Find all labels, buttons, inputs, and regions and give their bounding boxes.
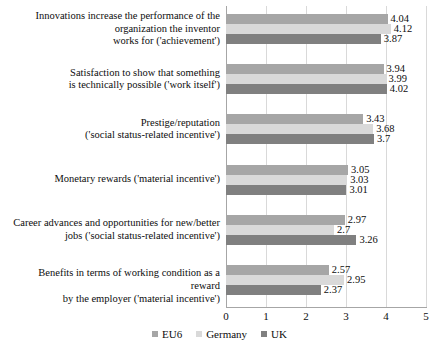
bar-row: 2.7 [226,225,426,235]
legend: EU6GermanyUK [0,328,439,340]
category-label: Prestige/reputation('social status-relat… [8,117,220,142]
legend-label: UK [271,328,287,340]
bar-eu6[interactable] [226,64,384,74]
category-label-line: Monetary rewards ('material incentive') [8,173,220,186]
bar-row: 3.03 [226,175,426,185]
category-label: Monetary rewards ('material incentive') [8,173,220,186]
bar-row: 3.05 [226,165,426,175]
bar-group: 3.053.033.01 [226,165,426,195]
gridline-4 [386,6,387,307]
bar-uk[interactable] [226,285,321,295]
tick-label-5: 5 [411,310,439,322]
category-label: Benefits in terms of working condition a… [8,267,220,305]
bar-group: 2.572.952.37 [226,265,426,295]
tick-label-2: 2 [291,310,321,322]
tick-label-3: 3 [331,310,361,322]
bar-value-label: 3.01 [346,184,367,195]
legend-label: Germany [206,328,247,340]
category-label-line: is technically possible ('work itself') [8,79,220,92]
bar-uk[interactable] [226,134,374,144]
bar-germany[interactable] [226,124,373,134]
category-label-line: Satisfaction to show that something [8,67,220,80]
bar-uk[interactable] [226,84,387,94]
gridline-5 [426,6,427,307]
category-label: Satisfaction to show that somethingis te… [8,67,220,92]
bar-germany[interactable] [226,24,391,34]
legend-item-uk[interactable]: UK [261,328,287,340]
bar-value-label: 2.7 [334,225,350,236]
tick-label-1: 1 [251,310,281,322]
bar-chart: 4.044.123.873.943.994.023.433.683.73.053… [0,0,439,348]
category-label-line: works for ('achievement') [8,35,220,48]
tick-label-0: 0 [211,310,241,322]
category-label-line: jobs ('social status-related incentive') [8,230,220,243]
category-label-line: Innovations increase the performance of … [8,10,220,23]
bar-value-label: 2.95 [344,275,365,286]
bar-eu6[interactable] [226,215,345,225]
bar-row: 4.02 [226,84,426,94]
bar-row: 3.87 [226,34,426,44]
category-label-line: ('social status-related incentive') [8,129,220,142]
bar-value-label: 3.7 [374,134,390,145]
bar-group: 2.972.73.26 [226,215,426,245]
bar-group: 4.044.123.87 [226,14,426,44]
legend-swatch-icon [152,331,158,337]
bar-uk[interactable] [226,185,346,195]
tick-label-4: 4 [371,310,401,322]
legend-swatch-icon [261,331,267,337]
bar-germany[interactable] [226,175,347,185]
gridline-0 [226,6,227,307]
bar-row: 3.01 [226,185,426,195]
bar-germany[interactable] [226,74,386,84]
bar-eu6[interactable] [226,14,388,24]
gridline-3 [346,6,347,307]
category-label-line: by the employer ('material incentive') [8,293,220,306]
category-label-line: Prestige/reputation [8,117,220,130]
bar-row: 3.68 [226,124,426,134]
bar-group: 3.433.683.7 [226,114,426,144]
legend-item-eu6[interactable]: EU6 [152,328,182,340]
plot-area: 4.044.123.873.943.994.023.433.683.73.053… [226,6,426,307]
bar-value-label: 3.87 [381,34,402,45]
bar-row: 3.26 [226,235,426,245]
bar-uk[interactable] [226,235,356,245]
x-axis-line [226,307,427,308]
gridline-1 [266,6,267,307]
bar-eu6[interactable] [226,165,348,175]
bar-eu6[interactable] [226,114,363,124]
bar-row: 2.57 [226,265,426,275]
category-label: Innovations increase the performance of … [8,10,220,48]
legend-item-germany[interactable]: Germany [196,328,247,340]
category-label-line: Benefits in terms of working condition a… [8,267,220,292]
legend-label: EU6 [162,328,182,340]
category-label-line: organization the inventor [8,23,220,36]
bar-value-label: 4.02 [387,84,408,95]
gridline-2 [306,6,307,307]
bar-value-label: 2.37 [321,285,342,296]
legend-swatch-icon [196,331,202,337]
bar-group: 3.943.994.02 [226,64,426,94]
bar-row: 2.97 [226,215,426,225]
bar-germany[interactable] [226,225,334,235]
bar-row: 3.7 [226,134,426,144]
bar-value-label: 3.26 [356,235,377,246]
bar-row: 3.43 [226,114,426,124]
category-label: Career advances and opportunities for ne… [8,217,220,242]
bar-row: 2.37 [226,285,426,295]
bar-eu6[interactable] [226,265,329,275]
bar-uk[interactable] [226,34,381,44]
category-label-line: Career advances and opportunities for ne… [8,217,220,230]
